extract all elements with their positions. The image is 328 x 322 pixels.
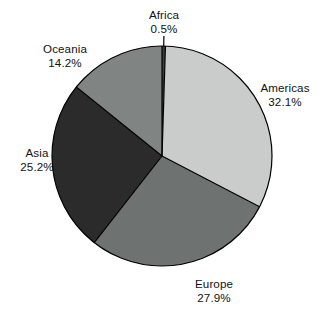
slice-label-americas: Americas 32.1%: [246, 81, 324, 108]
slice-label-europe: Europe 27.9%: [178, 277, 250, 304]
slice-label-asia-value: 25.2%: [6, 160, 68, 174]
slice-label-oceania-value: 14.2%: [26, 56, 104, 70]
slice-label-europe-name: Europe: [178, 277, 250, 291]
pie-chart: Africa 0.5% Americas 32.1% Europe 27.9% …: [0, 0, 328, 322]
slice-label-europe-value: 27.9%: [178, 291, 250, 305]
slice-label-asia-name: Asia: [6, 146, 68, 160]
slice-label-africa: Africa 0.5%: [128, 8, 200, 35]
slice-label-americas-value: 32.1%: [246, 95, 324, 109]
slice-label-africa-value: 0.5%: [128, 22, 200, 36]
slice-label-americas-name: Americas: [246, 81, 324, 95]
slice-label-asia: Asia 25.2%: [6, 146, 68, 173]
slice-label-oceania-name: Oceania: [26, 42, 104, 56]
slice-label-oceania: Oceania 14.2%: [26, 42, 104, 69]
slice-label-africa-name: Africa: [128, 8, 200, 22]
